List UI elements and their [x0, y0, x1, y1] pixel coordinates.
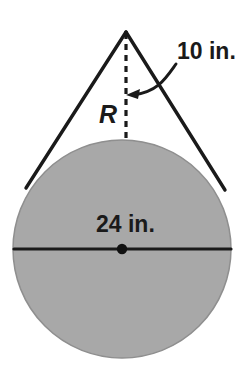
slant-height-label: 10 in. [177, 40, 236, 63]
diameter-label: 24 in. [96, 213, 155, 236]
center-point-dot [117, 244, 127, 254]
leader-arrow-head [126, 89, 140, 99]
geometry-figure: 10 in. R 24 in. [0, 0, 252, 387]
radius-label: R [99, 102, 117, 127]
